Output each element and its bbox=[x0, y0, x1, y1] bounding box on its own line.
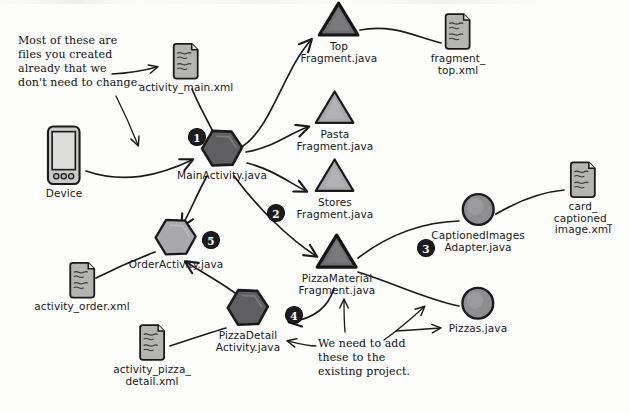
node-label: PizzaMaterial Fragment.java bbox=[299, 273, 376, 296]
node-pizzamaterialfragment-java[interactable]: PizzaMaterial Fragment.java bbox=[299, 233, 376, 296]
step-badge-2: 2 bbox=[268, 205, 285, 222]
xml-file-icon bbox=[68, 261, 96, 299]
triangle-shape bbox=[317, 1, 361, 39]
node-label: fragment_ top.xml bbox=[431, 53, 486, 76]
device-icon bbox=[46, 124, 82, 186]
node-card-captioned-image-xml[interactable]: card_ captioned_ image.xml bbox=[554, 161, 612, 236]
hexagon-shape bbox=[153, 217, 199, 257]
node-label: Device bbox=[46, 188, 83, 200]
node-label: Pasta Fragment.java bbox=[297, 129, 374, 152]
node-label: Pizzas.java bbox=[449, 323, 507, 335]
node-storesfragment-java[interactable]: Stores Fragment.java bbox=[297, 157, 374, 220]
node-label: PizzaDetail Activity.java bbox=[216, 330, 280, 353]
node-activity-pizza-detail-xml[interactable]: activity_pizza_ detail.xml bbox=[113, 324, 191, 387]
node-activity-order-xml[interactable]: activity_order.xml bbox=[34, 261, 130, 313]
node-label: Stores Fragment.java bbox=[297, 197, 374, 220]
annotation-existing-files: Most of these are files you created alre… bbox=[18, 34, 141, 90]
step-badge-1: 1 bbox=[189, 129, 206, 146]
xml-file-icon bbox=[444, 13, 472, 51]
node-device[interactable]: Device bbox=[46, 124, 83, 200]
edge-note-to-pizzadetailactivity bbox=[288, 341, 316, 346]
triangle-shape bbox=[313, 89, 357, 127]
node-label: Top Fragment.java bbox=[301, 41, 378, 64]
xml-file-icon bbox=[569, 161, 597, 199]
step-badge-3: 3 bbox=[418, 240, 435, 257]
node-captionedimagesadapter-java[interactable]: CaptionedImages Adapter.java bbox=[431, 192, 525, 253]
edge-note-to-device bbox=[116, 96, 138, 145]
node-topfragment-java[interactable]: Top Fragment.java bbox=[301, 1, 378, 64]
triangle-shape bbox=[313, 157, 357, 195]
node-label: MainActivity.java bbox=[177, 170, 267, 182]
annotation-add-these: We need to add these to the existing pro… bbox=[318, 337, 410, 379]
node-activity-main-xml[interactable]: activity_main.xml bbox=[139, 42, 234, 94]
xml-file-icon bbox=[172, 42, 200, 80]
hexagon-shape bbox=[225, 288, 271, 328]
hexagon-shape bbox=[199, 128, 245, 168]
edge-note-to-pizzas-label bbox=[396, 328, 440, 331]
step-badge-5: 5 bbox=[203, 232, 220, 249]
circle-shape bbox=[460, 285, 496, 321]
node-pastafragment-java[interactable]: Pasta Fragment.java bbox=[297, 89, 374, 152]
node-label: activity_pizza_ detail.xml bbox=[113, 364, 191, 387]
node-fragment-top-xml[interactable]: fragment_ top.xml bbox=[431, 13, 486, 76]
node-label: activity_order.xml bbox=[34, 301, 130, 313]
circle-shape bbox=[460, 192, 496, 228]
node-pizzadetailactivity-java[interactable]: PizzaDetail Activity.java bbox=[216, 288, 280, 353]
node-label: activity_main.xml bbox=[139, 82, 234, 94]
diagram-canvas: activity_main.xml Device MainActivity.ja… bbox=[0, 0, 630, 414]
edge-note-to-pizzamaterialfragment bbox=[344, 300, 345, 332]
step-badge-4: 4 bbox=[286, 307, 303, 324]
edge-note-to-pizzas bbox=[384, 307, 424, 340]
node-pizzas-java[interactable]: Pizzas.java bbox=[449, 285, 507, 335]
xml-file-icon bbox=[138, 324, 166, 362]
node-label: CaptionedImages Adapter.java bbox=[431, 230, 525, 253]
node-label: card_ captioned_ image.xml bbox=[554, 201, 612, 236]
triangle-shape bbox=[315, 233, 359, 271]
node-label: OrderActivity.java bbox=[129, 259, 224, 271]
